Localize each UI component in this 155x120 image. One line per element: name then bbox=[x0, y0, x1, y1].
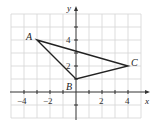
x-tick-label: 2 bbox=[99, 96, 104, 106]
y-axis-arrow-icon bbox=[74, 6, 78, 11]
y-tick-label: 4 bbox=[66, 35, 71, 45]
x-tick-label: −2 bbox=[43, 96, 53, 106]
x-tick-label: 4 bbox=[125, 96, 130, 106]
x-axis-arrow-icon bbox=[145, 90, 150, 94]
x-axis-label: x bbox=[144, 96, 149, 106]
vertex-label-c: C bbox=[131, 57, 138, 68]
coordinate-plane: −4 −2 2 4 2 4 x y A B C bbox=[0, 0, 155, 120]
x-tick-label: −4 bbox=[17, 96, 27, 106]
vertex-label-a: A bbox=[25, 31, 33, 42]
triangle-abc bbox=[37, 40, 128, 79]
y-axis-label: y bbox=[66, 3, 71, 13]
vertex-label-b: B bbox=[66, 81, 72, 92]
